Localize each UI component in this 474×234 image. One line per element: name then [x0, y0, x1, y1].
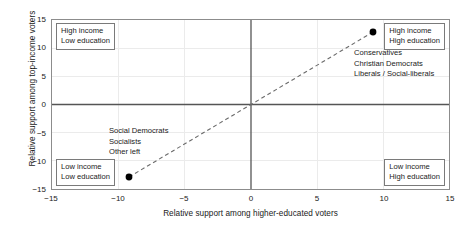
quadrant-label-top-left: High income Low education [56, 23, 115, 50]
y-tick-15: 15 [24, 16, 46, 24]
quadrant-bottom-right-line1: Low income [389, 162, 440, 172]
annotation-right-line2: Christian Democrats [354, 59, 434, 70]
x-tick-15: 15 [435, 195, 465, 203]
y-tick-5: 5 [24, 73, 46, 81]
quadrant-top-right-line2: High education [389, 36, 440, 46]
quadrant-top-left-line2: Low education [61, 36, 110, 46]
chart-figure: Relative support among top-income voters… [0, 0, 474, 234]
x-tick-10: 10 [369, 195, 399, 203]
y-tick-10: 10 [24, 44, 46, 52]
quadrant-bottom-left-line2: Low education [61, 172, 110, 182]
annotation-left-parties: Social Democrats Socialists Other left [109, 126, 169, 158]
quadrant-label-bottom-right: Low income High education [384, 159, 445, 186]
plot-panel: High income Low education High income Hi… [51, 19, 450, 190]
annotation-right-line3: Liberals / Social-liberals [354, 69, 434, 80]
x-tick-5: 5 [302, 195, 332, 203]
x-tick-m5: −5 [169, 195, 199, 203]
x-tick-0: 0 [236, 195, 266, 203]
quadrant-top-right-line1: High income [389, 26, 440, 36]
quadrant-label-bottom-left: Low income Low education [56, 159, 115, 186]
annotation-left-line1: Social Democrats [109, 126, 169, 137]
quadrant-top-left-line1: High income [61, 26, 110, 36]
quadrant-label-top-right: High income High education [384, 23, 445, 50]
quadrant-bottom-right-line2: High education [389, 172, 440, 182]
y-tick-m15: −15 [24, 186, 46, 194]
annotation-left-line3: Other left [109, 147, 169, 158]
y-tick-0: 0 [24, 101, 46, 109]
y-tick-m5: −5 [24, 130, 46, 138]
x-tick-m15: −15 [36, 195, 66, 203]
x-axis-tick-labels: −15 −10 −5 0 5 10 15 [0, 195, 474, 207]
annotation-left-line2: Socialists [109, 137, 169, 148]
data-point-left-parties [126, 174, 133, 181]
quadrant-bottom-left-line1: Low income [61, 162, 110, 172]
x-tick-m10: −10 [103, 195, 133, 203]
x-axis-title: Relative support among higher-educated v… [51, 209, 450, 218]
data-point-right-parties [370, 29, 377, 36]
y-tick-m10: −10 [24, 158, 46, 166]
annotation-right-line1: Conservatives [354, 48, 434, 59]
annotation-right-parties: Conservatives Christian Democrats Libera… [354, 48, 434, 80]
